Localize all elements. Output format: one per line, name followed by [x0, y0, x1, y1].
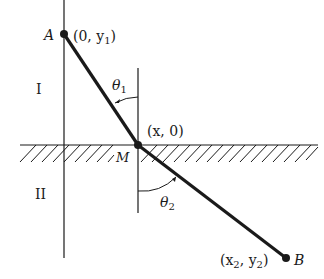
point-m-coords: (x, 0): [147, 123, 184, 139]
point-a-label: A: [42, 27, 54, 43]
ray-incident: [64, 34, 138, 145]
theta1-label: θ1: [112, 77, 127, 95]
point-m-label: M: [115, 150, 130, 165]
point-b-dot: [282, 254, 290, 262]
boundary-hatching: [20, 145, 318, 162]
theta2-arrow-icon: [172, 177, 176, 182]
point-b-label: B: [293, 252, 304, 268]
point-a-dot: [60, 30, 68, 38]
point-m-dot: [134, 141, 142, 149]
region-ii-label: II: [35, 186, 46, 202]
theta1-arrow-icon: [115, 99, 120, 103]
theta2-label: θ2: [160, 194, 175, 212]
point-b-coords: (x2, y2): [220, 252, 268, 270]
region-i-label: I: [36, 81, 42, 97]
point-a-coords: (0, y1): [73, 28, 116, 46]
refraction-diagram: A (0, y1) I II θ1 (x, 0) M θ2 (x2, y2) B: [0, 0, 324, 279]
theta2-arc: [138, 177, 176, 191]
